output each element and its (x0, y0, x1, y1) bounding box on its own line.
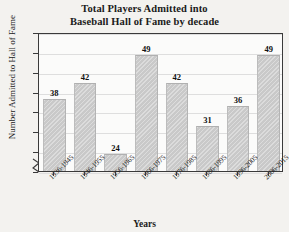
y-axis-title: Number Admitted to Hall of Fame (7, 2, 17, 152)
plot-area: 3842244942313649 (38, 33, 283, 172)
bar-chart: Total Players Admitted into Baseball Hal… (0, 0, 289, 232)
bar-slot: 42 (162, 32, 193, 171)
chart-title: Total Players Admitted into Baseball Hal… (0, 3, 289, 28)
bar-slot: 36 (223, 32, 254, 171)
x-axis-tick-mark (268, 172, 269, 176)
bar-series: 3842244942313649 (39, 34, 282, 171)
bar-slot: 49 (253, 32, 284, 171)
bar-slot: 42 (70, 32, 101, 171)
bar-value-label: 24 (100, 143, 131, 153)
bar[interactable] (257, 55, 280, 171)
bar[interactable] (135, 55, 158, 171)
bar-value-label: 42 (162, 72, 193, 82)
bar-value-label: 36 (223, 95, 254, 105)
x-axis-tick-mark (115, 172, 116, 176)
bar-slot: 24 (100, 32, 131, 171)
x-axis-tick-mark (237, 172, 238, 176)
bar-value-label: 31 (192, 115, 223, 125)
chart-title-line-1: Total Players Admitted into (0, 3, 289, 16)
x-axis-tick-mark (145, 172, 146, 176)
x-axis-tick-mark (84, 172, 85, 176)
bar-value-label: 49 (131, 44, 162, 54)
bar-slot: 49 (131, 32, 162, 171)
x-axis-tick-mark (206, 172, 207, 176)
y-axis-tick-mark (33, 172, 38, 173)
chart-title-line-2: Baseball Hall of Fame by decade (0, 16, 289, 29)
x-axis-title: Years (0, 219, 289, 229)
bar-slot: 38 (39, 32, 70, 171)
bar[interactable] (166, 83, 189, 171)
bar-slot: 31 (192, 32, 223, 171)
bar[interactable] (74, 83, 97, 171)
x-axis-tick-mark (53, 172, 54, 176)
bar-value-label: 49 (253, 44, 284, 54)
x-axis-tick-mark (176, 172, 177, 176)
bar-value-label: 42 (70, 72, 101, 82)
bar-value-label: 38 (39, 88, 70, 98)
